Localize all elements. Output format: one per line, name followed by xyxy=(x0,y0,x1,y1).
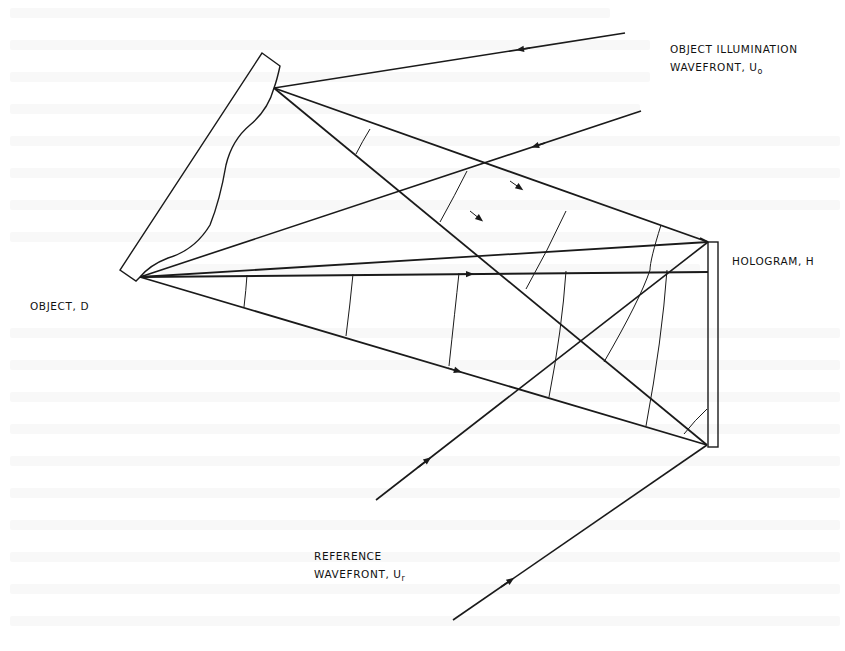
reference-label-line1: REFERENCE xyxy=(314,547,405,565)
object-rays xyxy=(140,88,708,445)
illumination-ray-lower xyxy=(140,111,641,277)
object-label-text: OBJECT, D xyxy=(30,300,89,312)
reference-wavefront-label: REFERENCE WAVEFRONT, Ur xyxy=(314,547,405,588)
object-label: OBJECT, D xyxy=(30,297,89,315)
holography-recording-diagram xyxy=(0,0,845,651)
illumination-label-line1: OBJECT ILLUMINATION xyxy=(670,40,798,58)
ray-b-horizontal xyxy=(140,272,708,277)
illumination-label-line2: WAVEFRONT, U xyxy=(670,61,758,73)
reference-ray-upper-arrow xyxy=(418,460,428,468)
ray-b-to-h-bottom xyxy=(140,277,707,445)
reference-label-line2: WAVEFRONT, U xyxy=(314,568,402,580)
ray-a-to-h-top xyxy=(274,88,708,242)
ray-b-to-h-top xyxy=(140,242,708,277)
hologram-label-text: HOLOGRAM, H xyxy=(732,255,814,267)
illumination-ray-lower-arrow xyxy=(535,143,545,146)
illumination-ray-upper-arrow xyxy=(520,48,530,50)
hologram-plate xyxy=(708,242,718,447)
illumination-ray-upper xyxy=(274,33,625,88)
hologram-label: HOLOGRAM, H xyxy=(732,252,814,270)
reference-ray-lower-arrow xyxy=(501,580,511,587)
illumination-wavefront-label: OBJECT ILLUMINATION WAVEFRONT, Uo xyxy=(670,40,798,81)
illumination-rays xyxy=(140,33,641,277)
reference-ray-lower xyxy=(453,445,707,620)
object-d-shape xyxy=(120,53,280,281)
reference-label-subscript: r xyxy=(402,574,406,583)
illumination-label-subscript: o xyxy=(758,67,764,76)
ray-a-to-h-bottom xyxy=(274,88,707,445)
